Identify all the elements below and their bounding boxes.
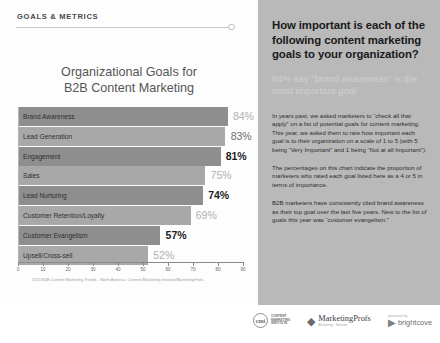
bar-category-label: Upsell/Cross-sell [23,246,72,265]
chart-y-axis [18,107,19,262]
chart-title-line-2: B2B Content Marketing [0,80,258,96]
axis-tick-label: 20 [65,267,70,272]
bar-category-label: Sales [23,166,40,185]
chart-column: GOALS & METRICS Organizational Goals for… [0,0,258,305]
logo-brightcove[interactable]: sponsored by ▶ brightcove [388,314,432,327]
axis-tick-label: 10 [40,267,45,272]
axis-tick [18,262,19,266]
axis-tick-label: 40 [115,267,120,272]
panel-paragraph: The percentages on this chart indicate t… [272,164,427,189]
marketingprofs-tagline: Marketing · Smarter [318,323,371,327]
footer-logo-row: cmi CONTENT MARKETING INSTITUTE ◆ Market… [253,313,432,328]
section-header-label: GOALS & METRICS [17,12,98,21]
bar-value-label: 83% [231,127,252,146]
bar-category-label: Brand Awareness [23,107,75,126]
axis-tick [93,262,94,266]
axis-tick-label: 90 [240,267,245,272]
bar-row[interactable]: Lead Generation 83% [18,127,243,146]
axis-tick [143,262,144,266]
axis-tick-label: 30 [90,267,95,272]
chart-title: Organizational Goals for B2B Content Mar… [0,64,258,96]
bar-row[interactable]: Customer Retention/Loyalty 69% [18,206,243,225]
chart-title-line-1: Organizational Goals for [61,65,197,79]
bar-category-label: Customer Retention/Loyalty [23,206,104,225]
bar-value-label: 57% [166,226,187,245]
bar-value-label: 74% [208,186,229,205]
axis-tick [218,262,219,266]
bar-value-label: 52% [153,246,174,265]
header-divider [16,27,231,28]
marketingprofs-wordmark: MarketingProfs [318,314,371,323]
bar-row[interactable]: Lead Nurturing 74% [18,186,243,205]
axis-tick-label: 50 [140,267,145,272]
brightcove-mark-icon: ▶ [388,318,396,327]
marketingprofs-mark-icon: ◆ [307,316,315,326]
axis-tick [243,262,244,266]
logo-marketingprofs[interactable]: ◆ MarketingProfs Marketing · Smarter [307,314,371,327]
bar-category-label: Customer Evangelism [23,226,88,245]
panel-paragraph: In years past, we asked marketers to “ch… [272,112,427,154]
cmi-logo-line-3: INSTITUTE [271,322,290,326]
bar-value-label: 84% [233,107,254,126]
bar-fill [18,166,205,185]
bar-row[interactable]: Customer Evangelism 57% [18,226,243,245]
axis-tick-label: 0 [17,267,20,272]
panel-subheading: 84% say “brand awareness” is the most im… [272,73,427,98]
panel-paragraph: B2B marketers have consistently cited br… [272,199,427,224]
bar-row[interactable]: Brand Awareness 84% [18,107,243,126]
bar-value-label: 81% [226,147,247,166]
commentary-panel: How important is each of the following c… [258,0,440,305]
bar-category-label: Lead Nurturing [23,186,67,205]
bar-chart: Brand Awareness 84% Lead Generation 83% … [18,107,243,259]
bar-category-label: Lead Generation [23,127,72,146]
axis-tick-label: 60 [165,267,170,272]
bar-value-label: 69% [196,206,217,225]
bar-category-label: Engagement [23,147,60,166]
bar-value-label: 75% [211,166,232,185]
bar-row[interactable]: Sales 75% [18,166,243,185]
axis-tick [118,262,119,266]
logo-content-marketing-institute[interactable]: cmi CONTENT MARKETING INSTITUTE [253,313,290,328]
slider-handle[interactable] [228,24,235,31]
chart-source-note: 2015 B2B Content Marketing Trends - Nort… [32,277,242,282]
brightcove-wordmark: brightcove [398,318,432,327]
axis-tick-label: 70 [190,267,195,272]
axis-tick [193,262,194,266]
infographic-page: GOALS & METRICS Organizational Goals for… [0,0,440,343]
bar-row[interactable]: Engagement 81% [18,147,243,166]
axis-tick-label: 80 [215,267,220,272]
panel-heading: How important is each of the following c… [272,18,427,62]
cmi-badge-icon: cmi [253,313,268,328]
chart-plot-area: Brand Awareness 84% Lead Generation 83% … [18,107,243,259]
footer: cmi CONTENT MARKETING INSTITUTE ◆ Market… [0,305,440,343]
